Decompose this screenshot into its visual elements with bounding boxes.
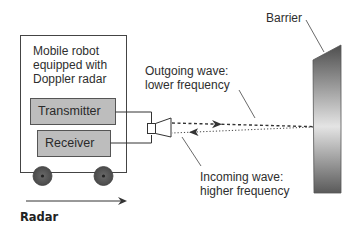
wheel-icon <box>33 167 52 186</box>
robot-title-line: equipped with <box>33 58 107 72</box>
robot-title: Mobile robot equipped with Doppler radar <box>33 44 107 86</box>
outgoing-label-line: Outgoing wave: <box>145 64 230 78</box>
receiver-label: Receiver <box>45 136 94 150</box>
barrier-shape <box>313 45 341 193</box>
incoming-wave-arrow <box>172 127 313 136</box>
robot-title-line: Doppler radar <box>33 72 107 86</box>
outgoing-wave-arrow <box>172 120 327 128</box>
outgoing-wave-label: Outgoing wave: lower frequency <box>145 64 230 92</box>
barrier-label: Barrier <box>266 11 302 25</box>
wheel-icon <box>94 167 113 186</box>
incoming-label-line: Incoming wave: <box>200 170 289 184</box>
motion-arrow-icon <box>26 197 127 205</box>
robot-title-line: Mobile robot <box>33 44 107 58</box>
barrier-leader-line <box>306 20 324 52</box>
outgoing-label-line: lower frequency <box>145 78 230 92</box>
incoming-leader-line <box>182 137 201 166</box>
figure-caption: Radar <box>20 210 58 224</box>
incoming-wave-label: Incoming wave: higher frequency <box>200 170 289 198</box>
transmitter-label: Transmitter <box>38 104 101 118</box>
outgoing-leader-line <box>239 90 255 118</box>
incoming-label-line: higher frequency <box>200 184 289 198</box>
